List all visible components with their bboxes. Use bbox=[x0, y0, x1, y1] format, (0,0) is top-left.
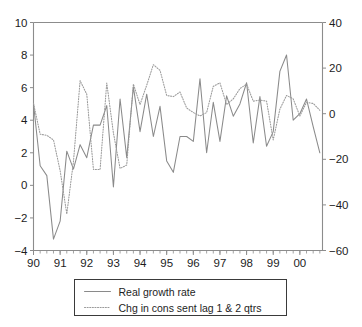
series-line-2 bbox=[34, 65, 320, 214]
left-axis-tick-label: 10 bbox=[15, 17, 28, 29]
series-line-1 bbox=[34, 55, 320, 239]
left-axis-tick-labels: −4−20246810 bbox=[14, 17, 28, 257]
x-axis-tick-label: 96 bbox=[187, 257, 200, 269]
x-axis-tick-label: 94 bbox=[134, 257, 147, 269]
right-axis-tick-label: 40 bbox=[329, 17, 342, 29]
x-axis-tick-label: 93 bbox=[107, 257, 120, 269]
right-axis-tick-labels: −60−40−2002040 bbox=[329, 17, 349, 257]
plot-frame bbox=[34, 23, 323, 251]
x-axis-tick-label: 98 bbox=[240, 257, 253, 269]
dual-axis-line-chart: 9091929394959697989900 −4−20246810 −60−4… bbox=[0, 0, 362, 327]
data-series-layer bbox=[34, 55, 320, 239]
right-axis-tick-label: −60 bbox=[329, 245, 349, 257]
x-axis-tick-label: 95 bbox=[160, 257, 173, 269]
x-axis-tick-label: 97 bbox=[214, 257, 227, 269]
right-axis-tick-label: −40 bbox=[329, 199, 349, 211]
left-axis-tick-label: 2 bbox=[21, 147, 27, 159]
legend-label-1: Real growth rate bbox=[119, 286, 196, 298]
left-axis-tick-label: 8 bbox=[21, 49, 27, 61]
x-axis-tick-label: 99 bbox=[267, 257, 280, 269]
left-axis-tick-label: −4 bbox=[14, 245, 28, 257]
right-axis-tick-label: −20 bbox=[329, 153, 349, 165]
axes-layer bbox=[34, 23, 323, 251]
right-axis-tick-label: 0 bbox=[329, 108, 335, 120]
left-axis-tick-label: 6 bbox=[21, 82, 27, 94]
left-axis-tick-label: 0 bbox=[21, 179, 27, 191]
chart-figure: 9091929394959697989900 −4−20246810 −60−4… bbox=[0, 0, 362, 327]
x-axis-tick-label: 91 bbox=[54, 257, 67, 269]
x-axis-tick-label: 00 bbox=[293, 257, 306, 269]
chart-legend: Real growth rateChg in cons sent lag 1 &… bbox=[75, 280, 287, 316]
x-axis-tick-label: 92 bbox=[80, 257, 93, 269]
x-axis-tick-label: 90 bbox=[27, 257, 40, 269]
x-axis-tick-labels: 9091929394959697989900 bbox=[27, 257, 306, 269]
legend-label-2: Chg in cons sent lag 1 & 2 qtrs bbox=[119, 302, 262, 314]
left-axis-tick-label: 4 bbox=[21, 114, 28, 126]
tick-marks-layer bbox=[30, 23, 326, 256]
left-axis-tick-label: −2 bbox=[14, 212, 27, 224]
right-axis-tick-label: 20 bbox=[329, 62, 342, 74]
